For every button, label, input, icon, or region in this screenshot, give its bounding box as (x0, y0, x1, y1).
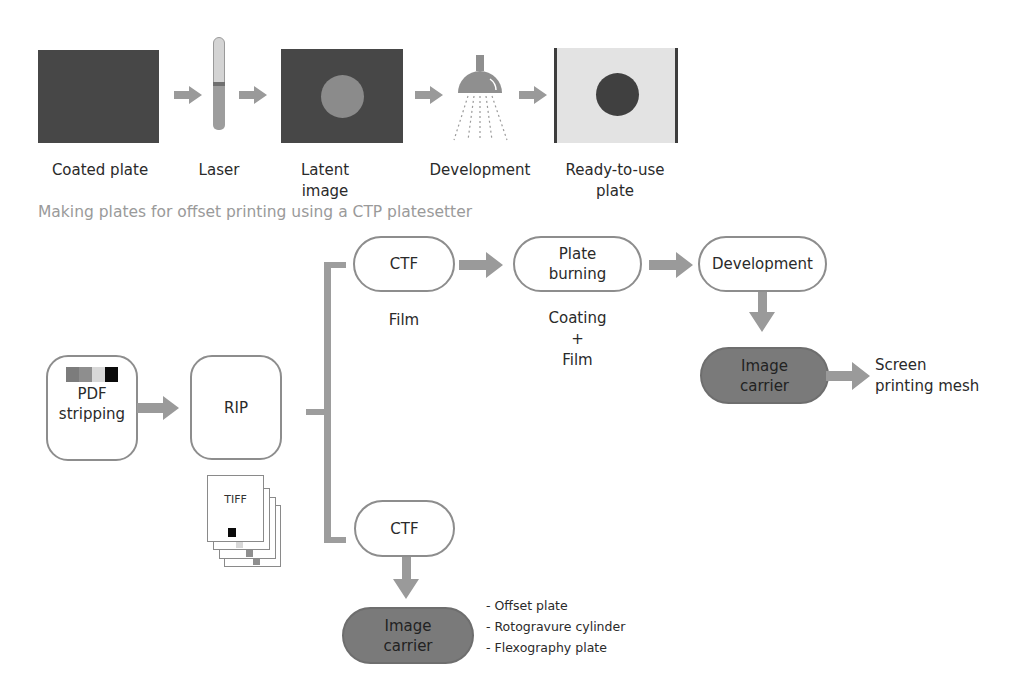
list-item: - Offset plate (486, 595, 625, 616)
list-item: - Rotogravure cylinder (486, 616, 625, 637)
image-area-circle (596, 73, 639, 116)
color-swatches (66, 367, 118, 382)
plate-burning-box: Plate burning (513, 236, 642, 292)
branch-connector (324, 262, 346, 268)
shower-development-icon (440, 52, 520, 144)
figure-caption: Making plates for offset printing using … (38, 203, 472, 221)
image-carrier-lower: Image carrier (342, 607, 474, 664)
ctf-box-upper: CTF (353, 236, 455, 292)
plate-burning-note: Coating + Film (513, 308, 642, 371)
latent-image-plate (281, 49, 403, 143)
latent-image-circle (321, 75, 364, 118)
swatch (92, 367, 105, 382)
coated-plate-image (38, 50, 159, 143)
arrow-right-icon (137, 396, 181, 420)
image-carrier-types-list: - Offset plate - Rotogravure cylinder - … (486, 595, 625, 658)
swatch (79, 367, 92, 382)
swatch (105, 367, 118, 382)
laser-icon (213, 37, 225, 130)
branch-connector (324, 537, 346, 543)
step-label-development: Development (410, 160, 550, 181)
step-label-coated-plate: Coated plate (30, 160, 170, 181)
pdf-stripping-box: PDF stripping (46, 355, 138, 461)
tiff-pages-stack: TIFF (207, 475, 282, 570)
ctf-note-film: Film (353, 310, 455, 331)
arrow-down-icon (393, 557, 420, 601)
branch-connector (306, 409, 326, 415)
step-label-laser: Laser (174, 160, 264, 181)
tiff-page: TIFF (207, 475, 264, 542)
arrow-right-icon (174, 86, 204, 104)
ready-to-use-plate-image (554, 48, 678, 143)
image-carrier-upper: Image carrier (700, 347, 829, 404)
development-box: Development (698, 236, 827, 292)
step-label-latent-image: Latent image (295, 160, 355, 202)
arrow-down-icon (749, 292, 776, 334)
arrow-right-icon (239, 86, 269, 104)
swatch (66, 367, 79, 382)
arrow-right-icon (826, 362, 872, 390)
rip-box: RIP (190, 355, 282, 460)
branch-connector (324, 262, 331, 543)
arrow-right-icon (519, 86, 549, 104)
arrow-right-icon (459, 252, 505, 278)
screen-printing-mesh-label: Screen printing mesh (875, 355, 979, 397)
list-item: - Flexography plate (486, 637, 625, 658)
ctf-box-lower: CTF (354, 500, 455, 557)
arrow-right-icon (649, 252, 695, 278)
step-label-ready-to-use-plate: Ready-to-use plate (550, 160, 680, 202)
